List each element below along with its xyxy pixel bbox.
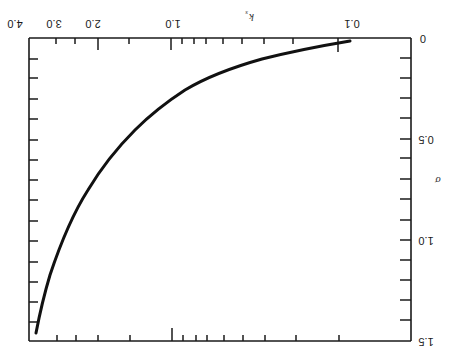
x-axis-title: k s — [245, 9, 254, 24]
y-axis-title: σ — [435, 175, 441, 187]
y-tick-label-0.5: 0.5 — [418, 134, 433, 146]
x-tick-label-3.0: 3.0 — [46, 18, 61, 30]
x-tick-label-2.0: 2.0 — [85, 18, 100, 30]
y-tick-label-0: 0 — [420, 33, 426, 45]
y-axis-ticks-right — [400, 58, 411, 320]
data-curve — [36, 41, 350, 333]
x-tick-label-4.0: 4.0 — [7, 18, 22, 30]
y-tick-labels: 0 0.5 1.0 1.5 — [418, 33, 433, 348]
x-axis-title-subscript: s — [245, 9, 248, 17]
y-tick-label-1.5: 1.5 — [418, 336, 433, 348]
x-tick-label-0.1: 0.1 — [344, 18, 359, 30]
x-tick-label-1.0: 1.0 — [165, 18, 180, 30]
x-axis-ticks-bottom — [57, 328, 339, 341]
y-axis-ticks-left — [29, 59, 38, 322]
x-tick-labels: 0.1 1.0 2.0 3.0 4.0 — [7, 18, 359, 30]
chart: 0.1 1.0 2.0 3.0 4.0 k s 0 0.5 1.0 1.5 σ — [0, 0, 459, 363]
y-tick-label-1.0: 1.0 — [418, 235, 433, 247]
plot-frame — [29, 38, 411, 341]
